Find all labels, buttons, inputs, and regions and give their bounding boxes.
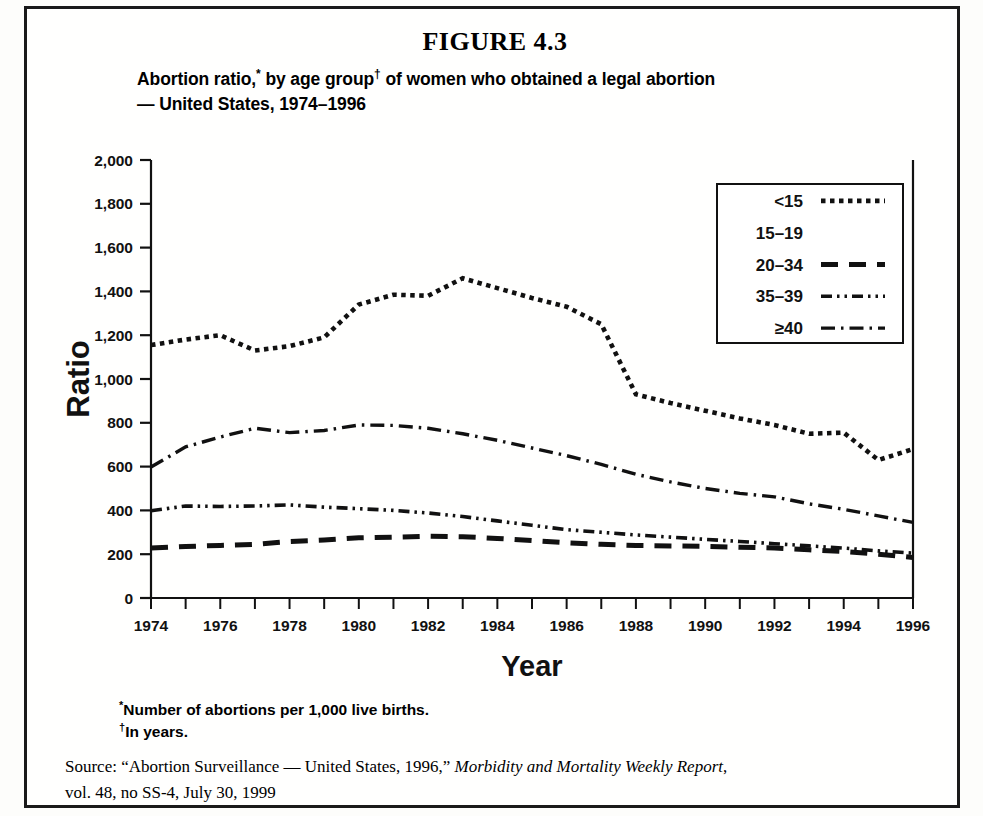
source-journal: Morbidity and Mortality Weekly Report — [455, 757, 723, 776]
y-axis-title: Ratio — [61, 340, 96, 418]
x-tick-label: 1992 — [757, 617, 791, 634]
x-tick-label: 1978 — [272, 617, 307, 634]
source-line2: vol. 48, no SS-4, July 30, 1999 — [65, 783, 276, 802]
y-tick-label: 1,200 — [94, 327, 133, 344]
y-tick-label: 1,000 — [94, 371, 133, 388]
x-tick-label: 1974 — [134, 617, 169, 634]
source-citation: Source: “Abortion Surveillance — United … — [65, 754, 935, 805]
footnote-2-text: In years. — [125, 723, 188, 740]
legend-label-15: <15 — [774, 192, 803, 211]
footnotes-block: *Number of abortions per 1,000 live birt… — [119, 699, 429, 744]
x-tick-label: 1988 — [619, 617, 654, 634]
legend-label-3539: 35–39 — [756, 287, 803, 306]
source-prefix: Source: “Abortion Surveillance — United … — [65, 757, 455, 776]
y-tick-label: 800 — [107, 414, 133, 431]
x-tick-label: 1982 — [411, 617, 445, 634]
x-tick-label: 1996 — [896, 617, 931, 634]
y-tick-label: 1,800 — [94, 195, 133, 212]
footnote-1-text: Number of abortions per 1,000 live birth… — [123, 701, 429, 718]
y-tick-label: 0 — [124, 590, 133, 607]
x-tick-label: 1984 — [480, 617, 515, 634]
y-tick-label: 400 — [107, 502, 133, 519]
figure-page: FIGURE 4.3 Abortion ratio,* by age group… — [0, 0, 983, 816]
series-line-2034 — [151, 536, 913, 557]
y-tick-label: 2,000 — [94, 152, 133, 169]
y-tick-label: 1,400 — [94, 283, 133, 300]
x-tick-label: 1976 — [203, 617, 238, 634]
line-chart: 02004006008001,0001,2001,4001,6001,8002,… — [27, 9, 963, 811]
y-tick-label: 1,600 — [94, 239, 133, 256]
footnote-1: *Number of abortions per 1,000 live birt… — [119, 699, 429, 721]
source-suffix: , — [723, 757, 727, 776]
page-border: FIGURE 4.3 Abortion ratio,* by age group… — [24, 6, 960, 808]
legend-label-1519: 15–19 — [756, 224, 803, 243]
x-tick-label: 1994 — [826, 617, 861, 634]
footnote-2: †In years. — [119, 721, 429, 743]
x-tick-label: 1990 — [688, 617, 722, 634]
series-line-40 — [151, 425, 913, 522]
y-tick-label: 600 — [107, 458, 133, 475]
legend-label-2034: 20–34 — [756, 256, 804, 275]
legend-label-40: ≥40 — [775, 319, 803, 338]
x-tick-label: 1986 — [549, 617, 584, 634]
x-tick-label: 1980 — [342, 617, 376, 634]
plot-area: 02004006008001,0001,2001,4001,6001,8002,… — [27, 9, 963, 811]
y-tick-label: 200 — [107, 546, 133, 563]
legend-box — [717, 184, 903, 343]
x-axis-title: Year — [501, 650, 562, 682]
